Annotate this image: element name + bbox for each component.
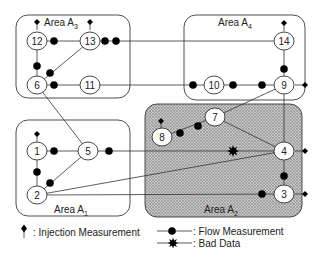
- bus-number: 10: [208, 80, 220, 91]
- flow-measurement-icon: [176, 129, 184, 137]
- flow-measurement-icon: [280, 172, 288, 180]
- flow-measurement-icon: [258, 81, 266, 89]
- injection-legend-icon: [21, 225, 27, 239]
- bus-number: 9: [281, 80, 287, 91]
- flow-measurement-icon: [46, 179, 54, 187]
- flow-measurement-icon: [33, 62, 41, 70]
- bus-node-10: 10: [204, 76, 224, 94]
- bad-data-layer: [227, 145, 239, 157]
- flow-measurement-icon: [105, 147, 113, 155]
- injection-measurement-icon: [281, 20, 287, 31]
- flow-measurement-icon: [112, 37, 120, 45]
- bus-node-5: 5: [78, 142, 98, 160]
- bus-node-13: 13: [80, 32, 100, 50]
- bus-number: 14: [278, 36, 290, 47]
- area-a1-label: Area A1: [54, 204, 88, 217]
- injection-measurement-icon: [295, 82, 308, 88]
- branch-13-6: [37, 41, 90, 85]
- bus-number: 13: [84, 36, 96, 47]
- bus-node-9: 9: [274, 76, 294, 94]
- bus-node-7: 7: [205, 108, 225, 126]
- areas-layer: [16, 15, 305, 217]
- flow-measurement-icon: [189, 81, 197, 89]
- flow-measurement-icon: [280, 65, 288, 73]
- injection-measurement-icon: [34, 131, 40, 142]
- legend: : Injection Measurement : Flow Measureme…: [21, 225, 284, 250]
- flow-measurement-icon: [50, 147, 58, 155]
- flow-measurement-icon: [101, 37, 109, 45]
- bus-number: 3: [281, 189, 287, 200]
- bus-number: 6: [34, 80, 40, 91]
- bus-number: 8: [159, 132, 165, 143]
- flow-measurement-icon: [46, 69, 54, 77]
- bus-number: 5: [85, 146, 91, 157]
- flow-legend-icon: [157, 227, 192, 235]
- bus-node-6: 6: [27, 76, 47, 94]
- bad-data-legend-label: : Bad Data: [193, 238, 241, 249]
- bus-node-2: 2: [27, 186, 47, 204]
- area-a3-label: Area A3: [44, 17, 78, 30]
- bad-data-legend-icon: [157, 238, 192, 249]
- bus-node-1: 1: [27, 142, 47, 160]
- area-a4-label: Area A4: [218, 17, 252, 30]
- flow-measurement-icon: [194, 122, 202, 130]
- power-system-diagram: 1234567891011121314 Area A3Area A4Area A…: [0, 0, 325, 262]
- injection-legend-label: : Injection Measurement: [33, 227, 140, 238]
- bus-node-14: 14: [274, 32, 294, 50]
- injection-measurement-icon: [87, 19, 93, 30]
- bus-node-4: 4: [274, 142, 294, 160]
- flow-measurement-icon: [50, 37, 58, 45]
- branch-2-5: [37, 151, 88, 195]
- bad-data-icon: [227, 145, 239, 157]
- branch-6-5: [37, 85, 88, 151]
- flow-measurement-icon: [50, 81, 58, 89]
- bus-number: 4: [281, 146, 287, 157]
- bus-node-12: 12: [27, 32, 47, 50]
- bus-number: 11: [85, 80, 96, 91]
- bus-number: 1: [34, 146, 40, 157]
- flow-measurement-icon: [229, 81, 237, 89]
- injection-measurement-icon: [34, 19, 40, 30]
- bus-number: 2: [34, 190, 40, 201]
- bus-number: 7: [212, 112, 218, 123]
- bus-node-8: 8: [152, 128, 172, 146]
- bus-node-11: 11: [80, 76, 100, 94]
- flow-legend-label: : Flow Measurement: [193, 226, 284, 237]
- bus-number: 12: [31, 36, 43, 47]
- flow-measurement-icon: [258, 190, 266, 198]
- flow-measurement-icon: [33, 168, 41, 176]
- bus-node-3: 3: [274, 185, 294, 203]
